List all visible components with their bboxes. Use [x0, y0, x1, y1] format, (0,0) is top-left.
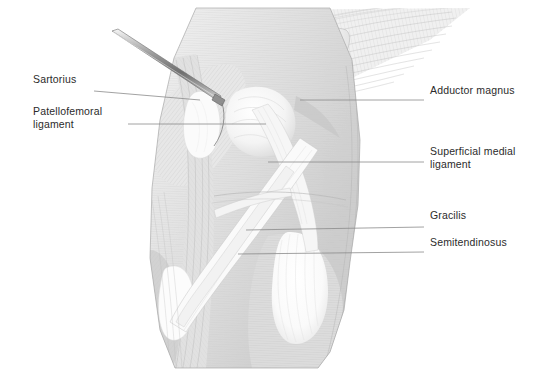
label-line: Adductor magnus	[430, 84, 515, 96]
label-line: ligament	[430, 158, 471, 170]
label-line: Semitendinosus	[430, 236, 507, 248]
label-semitendinosus: Semitendinosus	[430, 236, 507, 248]
label-gracilis: Gracilis	[430, 209, 466, 221]
label-line: ligament	[33, 118, 74, 130]
label-adductor-magnus: Adductor magnus	[430, 84, 515, 96]
label-sartorius: Sartorius	[33, 73, 76, 85]
knee-anatomy-illustration: SartoriusPatellofemoralligamentAdductor …	[0, 0, 546, 378]
label-line: Sartorius	[33, 73, 76, 85]
label-line: Gracilis	[430, 209, 466, 221]
label-line: Patellofemoral	[33, 105, 102, 117]
label-line: Superficial medial	[430, 145, 516, 157]
